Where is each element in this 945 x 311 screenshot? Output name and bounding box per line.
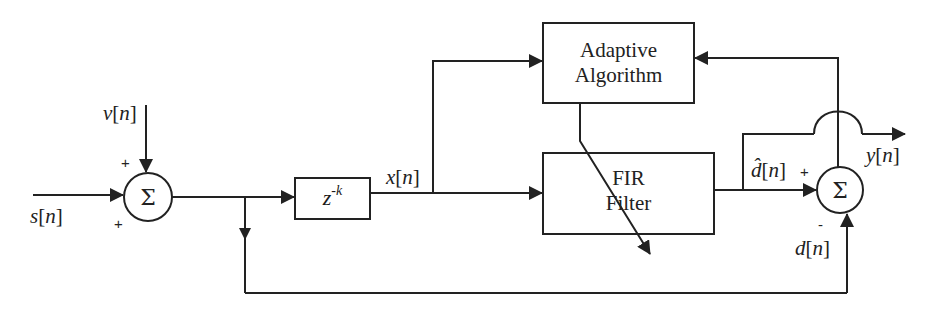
- adaptive-line1: Adaptive: [575, 38, 663, 63]
- left-sum-left-sign: +: [114, 216, 123, 231]
- left-summing-junction: Σ: [123, 172, 173, 222]
- signal-label-dhat: d̂[n]: [751, 160, 786, 181]
- fir-line2: Filter: [606, 191, 652, 216]
- left-sum-top-sign: +: [121, 155, 130, 170]
- signal-label-d: d[n]: [795, 238, 830, 259]
- right-sum-bottom-sign: -: [818, 217, 823, 232]
- delay-label: z-k: [323, 185, 342, 211]
- fir-filter-block: FIR Filter: [542, 152, 715, 235]
- signal-label-y: y[n]: [866, 145, 900, 166]
- signal-label-x: x[n]: [386, 167, 420, 188]
- fir-line1: FIR: [606, 166, 652, 191]
- sigma-icon: Σ: [832, 178, 848, 203]
- signal-label-s: s[n]: [30, 206, 63, 227]
- signal-label-v: v[n]: [103, 103, 137, 124]
- sigma-icon: Σ: [140, 185, 156, 210]
- right-sum-left-sign: +: [800, 164, 809, 179]
- adaptive-algorithm-block: Adaptive Algorithm: [542, 22, 695, 104]
- adaptive-line2: Algorithm: [575, 63, 663, 88]
- connection-wires: [0, 0, 945, 311]
- right-summing-junction: Σ: [816, 166, 864, 214]
- delay-block: z-k: [294, 177, 371, 220]
